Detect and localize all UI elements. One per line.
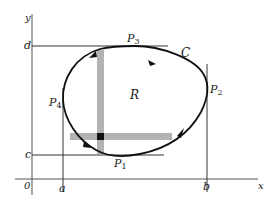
region-label-r: R: [130, 89, 139, 101]
arrow-icon-top-right: [148, 60, 156, 66]
tick-label-c: c: [25, 149, 31, 160]
origin-label: 0: [24, 181, 30, 191]
arrow-icon-bottom-right: [177, 128, 184, 138]
point-label-p4: P4: [49, 97, 62, 110]
point-label-p1: P1: [114, 158, 127, 171]
arrow-icon-bottom-left: [83, 141, 91, 148]
point-label-p2: P2: [210, 84, 223, 97]
horizontal-strip: [70, 133, 172, 140]
point-label-p3: P3: [127, 33, 140, 46]
tick-label-b: b: [203, 181, 210, 192]
curve-label-c: C: [181, 47, 190, 59]
tick-label-a: a: [59, 183, 66, 194]
x-axis-label: x: [258, 181, 264, 191]
y-axis-label: y: [25, 13, 31, 23]
area-element-cell: [97, 133, 104, 140]
tick-label-d: d: [24, 40, 31, 51]
